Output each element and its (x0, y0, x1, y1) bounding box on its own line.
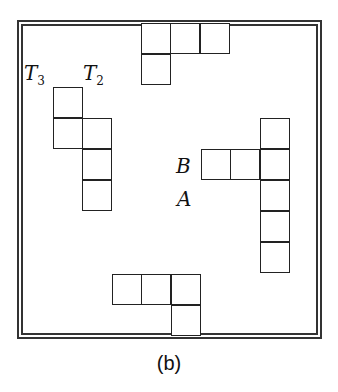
bottom-piece-cell (171, 305, 201, 336)
figure-caption: (b) (0, 352, 338, 375)
right-column-piece-cell (260, 180, 290, 211)
t2-piece-cell (82, 149, 112, 180)
right-column-piece-cell (260, 242, 290, 273)
label-a: A (177, 189, 191, 209)
right-column-piece-cell (260, 211, 290, 242)
label-t2: T2 (83, 63, 104, 87)
b-row-piece-cell (230, 149, 260, 180)
top-piece-cell (141, 23, 171, 54)
bottom-piece-cell (112, 274, 142, 305)
top-piece-cell (141, 54, 171, 85)
label-t2-base: T (83, 61, 96, 85)
t3-piece-cell (53, 87, 83, 118)
right-column-piece-cell (260, 149, 290, 180)
top-piece-cell (200, 23, 230, 54)
bottom-piece-cell (141, 274, 171, 305)
t2-piece-cell (82, 118, 112, 149)
label-b: B (176, 156, 191, 176)
t3-piece-cell (53, 118, 83, 149)
label-t3-base: T (24, 61, 37, 85)
label-t2-sub: 2 (96, 74, 104, 88)
label-t3-sub: 3 (37, 74, 45, 88)
b-row-piece-cell (201, 149, 231, 180)
bottom-piece-cell (171, 274, 201, 305)
label-t3: T3 (24, 63, 45, 87)
t2-piece-cell (82, 180, 112, 211)
right-column-piece-cell (260, 118, 290, 149)
top-piece-cell (170, 23, 200, 54)
